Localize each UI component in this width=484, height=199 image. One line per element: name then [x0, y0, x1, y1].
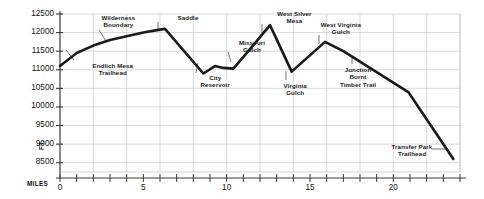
annotation-label: Endlich Mesa Trailhead [79, 62, 147, 77]
chart-canvas [0, 0, 484, 199]
annotation-label: Virginia Gulch [261, 82, 329, 97]
x-axis-title: MILES [27, 180, 48, 187]
y-tick-label: 10500 [14, 84, 54, 92]
annotation-label: Junction Burnt Timber Trail [324, 66, 392, 88]
y-tick-label: 9500 [14, 121, 54, 129]
x-tick-label: 20 [381, 184, 405, 192]
y-tick-label: 12000 [14, 28, 54, 36]
y-tick-label: 11000 [14, 65, 54, 73]
y-tick-label: 9000 [14, 140, 54, 148]
y-tick-label: 11500 [14, 47, 54, 55]
annotation-label: City Reservoir [181, 74, 249, 89]
annotation-label: Wilderness Boundary [84, 14, 152, 29]
y-axis-title: FT. [38, 140, 45, 150]
x-tick-label: 5 [131, 184, 155, 192]
x-tick-label: 0 [48, 184, 72, 192]
y-tick-label: 10000 [14, 102, 54, 110]
annotation-label: West Virginia Gulch [307, 21, 375, 36]
x-tick-label: 10 [215, 184, 239, 192]
annotation-label: Saddle [154, 14, 222, 21]
x-tick-label: 15 [298, 184, 322, 192]
annotation-label: Missouri Gulch [218, 39, 286, 54]
y-tick-label: 12500 [14, 10, 54, 18]
annotation-label: Transfer Park Trailhead [378, 143, 446, 158]
elevation-profile-chart: 8500900095001000010500110001150012000125… [0, 0, 484, 199]
y-tick-label: 8500 [14, 158, 54, 166]
